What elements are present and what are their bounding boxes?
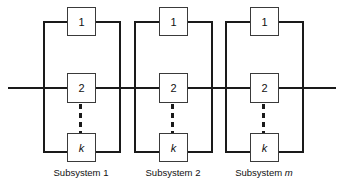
subsystem-m-left-rail bbox=[225, 21, 227, 153]
subsystem-m-caption-index: m bbox=[285, 167, 293, 178]
subsystem-1-bottom-rail-right bbox=[95, 151, 121, 153]
subsystem-m-caption: Subsystem m bbox=[219, 167, 309, 178]
subsystem-1-top-rail-right bbox=[95, 21, 121, 23]
subsystem-2-top-rail-right bbox=[187, 21, 213, 23]
main-bus-segment-s2-s3 bbox=[187, 87, 250, 89]
subsystem-2-ellipsis bbox=[171, 104, 174, 133]
subsystem-2-block-1: 1 bbox=[159, 7, 188, 36]
subsystem-1-top-rail-left bbox=[43, 21, 69, 23]
subsystem-1-block-1: 1 bbox=[67, 7, 96, 36]
subsystem-1-left-rail bbox=[43, 21, 45, 153]
subsystem-2-bottom-rail-left bbox=[134, 151, 160, 153]
subsystem-2-caption: Subsystem 2 bbox=[128, 167, 218, 178]
main-bus-input-lead bbox=[8, 87, 68, 89]
subsystem-1-block-2: 2 bbox=[67, 73, 96, 103]
subsystem-m-block-1: 1 bbox=[250, 7, 279, 36]
subsystem-m-top-rail-left bbox=[225, 21, 251, 23]
reliability-block-diagram: 1 2 k Subsystem 1 1 2 k Subsystem 2 1 2 … bbox=[0, 0, 344, 189]
subsystem-1-right-rail bbox=[119, 21, 121, 153]
subsystem-1-caption-prefix: Subsystem bbox=[54, 167, 101, 178]
main-bus-output-lead bbox=[278, 87, 336, 89]
subsystem-m-block-k: k bbox=[250, 133, 279, 162]
subsystem-2-right-rail bbox=[211, 21, 213, 153]
subsystem-m-block-2: 2 bbox=[250, 73, 279, 103]
subsystem-1-caption: Subsystem 1 bbox=[36, 167, 126, 178]
subsystem-m-ellipsis bbox=[262, 104, 265, 133]
subsystem-m-bottom-rail-right bbox=[278, 151, 304, 153]
subsystem-2-caption-prefix: Subsystem bbox=[146, 167, 193, 178]
subsystem-m-caption-prefix: Subsystem bbox=[235, 167, 282, 178]
subsystem-m-top-rail-right bbox=[278, 21, 304, 23]
subsystem-1-block-k: k bbox=[67, 133, 96, 162]
subsystem-2-block-2: 2 bbox=[159, 73, 188, 103]
subsystem-1-ellipsis bbox=[79, 104, 82, 133]
subsystem-m-bottom-rail-left bbox=[225, 151, 251, 153]
subsystem-1-caption-index: 1 bbox=[103, 167, 108, 178]
subsystem-2-caption-index: 2 bbox=[195, 167, 200, 178]
subsystem-m-right-rail bbox=[302, 21, 304, 153]
main-bus-segment-s1-s2 bbox=[95, 87, 160, 89]
subsystem-2-bottom-rail-right bbox=[187, 151, 213, 153]
subsystem-2-top-rail-left bbox=[134, 21, 160, 23]
subsystem-1-bottom-rail-left bbox=[43, 151, 69, 153]
subsystem-2-left-rail bbox=[134, 21, 136, 153]
subsystem-2-block-k: k bbox=[159, 133, 188, 162]
